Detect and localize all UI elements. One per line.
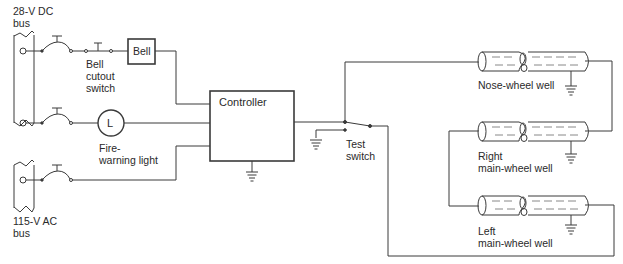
bell-circuit-wire xyxy=(20,36,128,54)
bell-label: Bell xyxy=(133,45,151,57)
loop-wire-nose-to-right xyxy=(590,61,612,131)
bell-cutout-label: Bell cutout switch xyxy=(86,58,115,94)
loop-wire-right-to-left xyxy=(449,131,479,206)
left-wheel-well-label: Left main-wheel well xyxy=(478,225,553,249)
ac-bus-label: 115-V AC bus xyxy=(13,215,57,239)
fire-light-circuit-wire xyxy=(20,108,210,136)
right-wheel-well-label: Right main-wheel well xyxy=(478,150,553,174)
test-switch xyxy=(294,62,388,138)
fire-light-line2: warning light xyxy=(99,154,158,166)
dc-bus-bar xyxy=(14,31,34,126)
nose-wheel-well-label: Nose-wheel well xyxy=(478,79,554,91)
dc-bus-label: 28-V DC bus xyxy=(13,5,53,29)
right-well-line2: main-wheel well xyxy=(478,162,553,174)
left-well-line1: Left xyxy=(478,225,553,237)
bell-cutout-line2: cutout xyxy=(86,70,115,82)
test-switch-line2: switch xyxy=(346,150,375,162)
ac-bus-label-line2: bus xyxy=(13,227,57,239)
bell-to-controller-wire xyxy=(155,51,210,104)
test-switch-label: Test switch xyxy=(346,138,375,162)
bell-cutout-line3: switch xyxy=(86,82,115,94)
fire-warning-light-label: Fire- warning light xyxy=(99,142,158,166)
test-switch-line1: Test xyxy=(346,138,375,150)
ac-bus-label-line1: 115-V AC xyxy=(13,215,57,227)
bell-cutout-line1: Bell xyxy=(86,58,115,70)
controller-ground-icon xyxy=(246,161,258,181)
dc-bus-label-line1: 28-V DC xyxy=(13,5,53,17)
left-well-line2: main-wheel well xyxy=(478,237,553,249)
test-switch-ground-icon xyxy=(310,140,322,149)
controller-label: Controller xyxy=(219,96,267,108)
dc-bus-label-line2: bus xyxy=(13,17,53,29)
fire-light-symbol: L xyxy=(107,117,113,129)
fire-light-line1: Fire- xyxy=(99,142,158,154)
ac-bus-bar xyxy=(14,160,34,212)
right-well-line1: Right xyxy=(478,150,553,162)
